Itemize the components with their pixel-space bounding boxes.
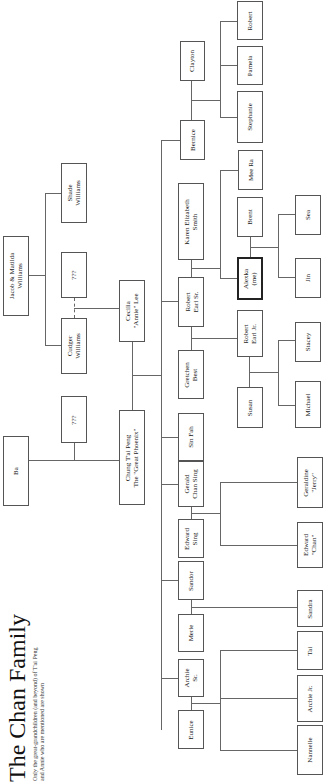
connector (132, 375, 161, 376)
person-stacey[interactable]: Stacey (295, 322, 321, 362)
person-name: Geraldine "Jerry" (302, 469, 318, 497)
person-name: Sin Fah (187, 426, 195, 448)
person-gretchen-best[interactable]: Gretchen Best (178, 350, 204, 399)
person-gerald-chan-sing[interactable]: Gerald Chan Sing (178, 461, 204, 507)
person-name: Gerald Chan Sing (183, 469, 199, 498)
person-cecilia-lee[interactable]: Cecilia "Annie" Lee (119, 280, 145, 342)
person-name: Karen Elizabeth Smith (183, 199, 199, 244)
person-name: Jin (304, 274, 312, 282)
person-name: Edward Sing (183, 528, 199, 550)
person-name: Cudger Williams (66, 333, 82, 358)
connector (28, 460, 119, 461)
connector (161, 140, 180, 141)
person-name: Sea (304, 210, 312, 220)
connector (191, 703, 220, 704)
person-name: Cecilia "Annie" Lee (124, 293, 140, 328)
person-name: Tai (306, 646, 314, 655)
person-edward-chan[interactable]: Edward "Chan" (297, 522, 323, 568)
person-name: Eunice (187, 720, 195, 739)
person-mee-ra[interactable]: Mee Ra (238, 150, 263, 190)
person-name: ??? (70, 415, 78, 424)
person-jacob-matilda-williams[interactable]: Jacob & Matilda Williams (3, 236, 29, 316)
person-susan[interactable]: Susan (237, 387, 263, 428)
connector (45, 193, 61, 194)
page-subtitle: Only the great-grandchildren (and beyond… (32, 631, 46, 781)
connector (45, 345, 61, 346)
connector (220, 65, 237, 66)
person-name: Shade Williams (66, 180, 82, 205)
person-cudger-williams[interactable]: Cudger Williams (61, 318, 87, 374)
person-archie-jr[interactable]: Archie Jr. (297, 675, 323, 722)
connector (220, 21, 237, 22)
connector (220, 21, 221, 117)
person-name: Clayton (188, 50, 196, 72)
person-clayton[interactable]: Clayton (180, 41, 205, 81)
person-bernice[interactable]: Bernice (180, 120, 205, 160)
person-merle[interactable]: Merle (178, 614, 204, 652)
person-jin[interactable]: Jin (295, 258, 321, 298)
person-sea[interactable]: Sea (295, 195, 321, 235)
connector (132, 342, 133, 410)
connector (161, 301, 178, 302)
connector (74, 443, 75, 460)
person-karen-elizabeth-smith[interactable]: Karen Elizabeth Smith (178, 183, 204, 260)
connector (250, 247, 278, 248)
person-name: Edward "Chan" (302, 534, 318, 556)
person-unknown-spouse-ba[interactable]: ??? (61, 396, 87, 443)
person-robert[interactable]: Robert (237, 1, 263, 40)
person-tai[interactable]: Tai (297, 631, 323, 670)
person-name: Pamela (246, 55, 254, 76)
person-name: Ba (12, 467, 20, 475)
connector (220, 170, 221, 278)
person-name: Chung T'ai Peng The "Great Phoenix" (124, 428, 140, 487)
person-edward-sing[interactable]: Edward Sing (178, 519, 204, 558)
connector (220, 170, 238, 171)
person-name: Susan (246, 399, 254, 416)
person-name: Robert (246, 11, 254, 30)
person-nannelle[interactable]: Nannelle (297, 725, 323, 775)
connector (220, 278, 237, 279)
person-sandor[interactable]: Sandor (178, 561, 204, 600)
connector (191, 338, 237, 339)
connector (237, 482, 297, 483)
person-brent[interactable]: Brent (237, 197, 263, 237)
connector (161, 484, 178, 485)
person-robert-earl-jr[interactable]: Robert Earl Jr. (237, 310, 263, 357)
person-name: Nannelle (306, 737, 314, 762)
person-shade-williams[interactable]: Shade Williams (61, 163, 87, 223)
person-michael[interactable]: Michael (295, 381, 321, 428)
person-unknown-spouse-williams[interactable]: ??? (61, 252, 87, 298)
connector (220, 117, 237, 118)
connector (191, 607, 297, 608)
person-name: ??? (70, 270, 78, 279)
connector (220, 698, 297, 699)
connector (191, 268, 220, 269)
connector (278, 277, 295, 278)
person-sin-fah[interactable]: Sin Fah (178, 413, 204, 461)
person-sandra[interactable]: Sandra (297, 590, 323, 627)
person-geraldine-jerry[interactable]: Geraldine "Jerry" (297, 457, 323, 508)
connector (278, 340, 295, 341)
person-name: Stephanie (246, 103, 254, 131)
person-name: Sandra (306, 599, 314, 618)
connector (74, 308, 119, 309)
connector (278, 214, 295, 215)
person-robert-earl-sr[interactable]: Robert Earl Sr. (178, 277, 204, 327)
connector (220, 750, 297, 751)
connector (220, 482, 237, 483)
connector (220, 650, 297, 651)
person-alexka-me[interactable]: Alexka (me) (237, 257, 263, 300)
connector (45, 193, 46, 346)
connector (220, 650, 221, 750)
person-stephanie[interactable]: Stephanie (237, 91, 263, 143)
connector (161, 678, 178, 679)
person-ba[interactable]: Ba (3, 436, 29, 506)
person-name: Archie Sr. (183, 668, 199, 687)
connector (249, 372, 278, 373)
person-archie-sr[interactable]: Archie Sr. (178, 659, 204, 697)
person-pamela[interactable]: Pamela (237, 46, 263, 85)
person-name: Mee Ra (247, 159, 255, 181)
person-name: Alexka (me) (242, 268, 258, 288)
person-eunice[interactable]: Eunice (178, 710, 204, 749)
person-chung-tai-peng[interactable]: Chung T'ai Peng The "Great Phoenix" (119, 410, 145, 505)
